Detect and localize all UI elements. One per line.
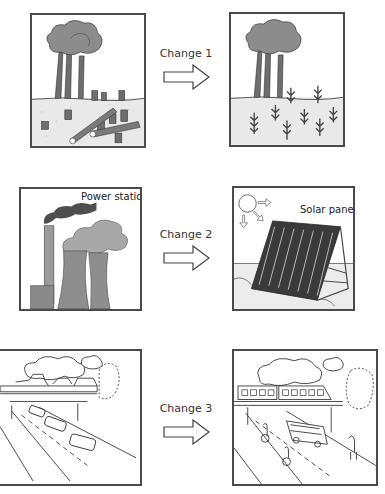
power-station-illustration	[21, 189, 140, 309]
change-3-label: Change 3	[146, 402, 226, 415]
arrow-right-icon	[163, 245, 211, 271]
panel-solar-panel: Solar panel	[232, 186, 355, 311]
highway-illustration	[0, 351, 140, 484]
pedestrian-icon	[349, 436, 357, 460]
panel-public-transport	[232, 349, 378, 486]
public-transport-illustration	[234, 351, 376, 484]
deforestation-illustration	[32, 15, 144, 146]
reforestation-illustration	[231, 14, 343, 145]
arrow-right-icon	[163, 64, 211, 90]
power-station-caption: Power station	[81, 191, 142, 202]
cyclist-icon	[283, 447, 291, 466]
change-2-label: Change 2	[146, 228, 226, 241]
panel-reforestation	[229, 12, 345, 147]
panel-power-station: Power station	[19, 187, 142, 311]
solar-panel-caption: Solar panel	[300, 204, 355, 215]
panel-deforestation	[30, 13, 146, 148]
panel-highway-cars	[0, 349, 142, 486]
sun-icon	[239, 195, 256, 212]
arrow-right-icon	[163, 419, 211, 445]
change-1-label: Change 1	[146, 47, 226, 60]
